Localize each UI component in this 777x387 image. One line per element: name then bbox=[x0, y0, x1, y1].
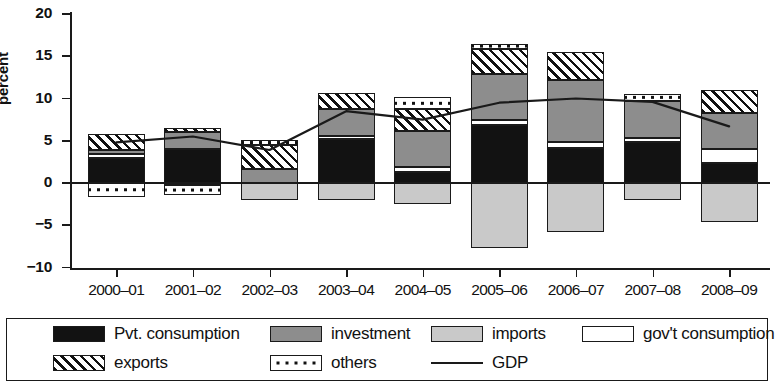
bar-segment-exp bbox=[164, 128, 221, 132]
bar-segment-imp bbox=[547, 183, 604, 232]
y-tick-label: 0 bbox=[8, 173, 52, 191]
y-tick-mark bbox=[62, 182, 71, 184]
chart-legend: Pvt. consumptioninvestmentimportsgov't c… bbox=[6, 318, 768, 381]
bar-stack bbox=[394, 0, 451, 290]
bar-segment-pvt bbox=[471, 125, 528, 183]
stacked-bar-chart: percent 20151050−5−10 2000–012001–022002… bbox=[0, 0, 777, 387]
bar-stack bbox=[318, 0, 375, 290]
bar-segment-gov bbox=[471, 120, 528, 124]
legend-label: investment bbox=[331, 324, 410, 344]
y-tick-mark bbox=[62, 140, 71, 142]
bar-stack bbox=[624, 0, 681, 290]
solid-black-swatch bbox=[53, 326, 105, 342]
bar-segment-exp bbox=[394, 109, 451, 131]
y-tick-label: 10 bbox=[8, 89, 52, 107]
y-tick-mark bbox=[62, 13, 71, 15]
bar-stack bbox=[88, 0, 145, 290]
bar-segment-inv bbox=[471, 74, 528, 120]
bar-segment-exp bbox=[88, 134, 145, 150]
bar-segment-pvt bbox=[547, 148, 604, 183]
bar-segment-inv bbox=[701, 113, 758, 149]
bar-segment-oth bbox=[624, 94, 681, 101]
y-tick-mark bbox=[62, 98, 71, 100]
dotted-swatch bbox=[270, 355, 322, 371]
bar-segment-exp bbox=[547, 52, 604, 80]
bar-stack bbox=[701, 0, 758, 290]
bar-segment-gov bbox=[701, 149, 758, 163]
legend-item[interactable]: others bbox=[270, 353, 376, 373]
bar-segment-exp bbox=[471, 49, 528, 74]
bar-segment-imp bbox=[471, 183, 528, 248]
bar-segment-inv bbox=[164, 132, 221, 149]
legend-item[interactable]: imports bbox=[431, 324, 546, 344]
line-swatch bbox=[431, 355, 483, 371]
bar-segment-gov bbox=[547, 142, 604, 147]
legend-label: GDP bbox=[492, 353, 528, 373]
bar-stack bbox=[547, 0, 604, 290]
bar-stack bbox=[241, 0, 298, 290]
y-tick-mark bbox=[62, 267, 71, 269]
y-tick-mark bbox=[62, 55, 71, 57]
y-tick-label: −5 bbox=[8, 215, 52, 233]
bar-segment-gov bbox=[394, 167, 451, 172]
bar-segment-gov bbox=[624, 138, 681, 142]
legend-item[interactable]: gov't consumption bbox=[582, 324, 774, 344]
legend-label: others bbox=[331, 353, 376, 373]
bar-segment-oth bbox=[394, 97, 451, 110]
bar-segment-pvt bbox=[318, 139, 375, 183]
y-tick-label: −10 bbox=[8, 258, 52, 276]
bar-segment-pvt bbox=[701, 163, 758, 183]
bar-segment-inv bbox=[394, 131, 451, 166]
bar-segment-oth bbox=[471, 44, 528, 48]
legend-item[interactable]: GDP bbox=[431, 353, 528, 373]
legend-row-secondary: exportsothersGDP bbox=[7, 353, 767, 379]
hatch-swatch bbox=[53, 355, 105, 371]
dark-gray-swatch bbox=[270, 326, 322, 342]
bar-segment-imp bbox=[241, 183, 298, 200]
bar-segment-inv bbox=[547, 80, 604, 143]
bar-segment-exp bbox=[701, 90, 758, 113]
bar-stack bbox=[471, 0, 528, 290]
y-tick-label: 5 bbox=[8, 131, 52, 149]
legend-label: imports bbox=[492, 324, 546, 344]
white-swatch bbox=[582, 326, 634, 342]
legend-label: gov't consumption bbox=[643, 324, 774, 344]
legend-item[interactable]: Pvt. consumption bbox=[53, 324, 240, 344]
bar-segment-pvt bbox=[394, 172, 451, 183]
bar-segment-oth bbox=[241, 140, 298, 145]
legend-row-primary: Pvt. consumptioninvestmentimportsgov't c… bbox=[7, 324, 767, 350]
bar-stack bbox=[164, 0, 221, 290]
bar-segment-oth bbox=[88, 183, 145, 197]
bar-segment-imp bbox=[394, 183, 451, 204]
bar-segment-inv bbox=[241, 169, 298, 183]
legend-item[interactable]: investment bbox=[270, 324, 410, 344]
bar-segment-gov bbox=[88, 154, 145, 158]
bar-segment-inv bbox=[624, 101, 681, 138]
bar-segment-exp bbox=[241, 145, 298, 170]
bar-segment-oth bbox=[164, 185, 221, 195]
bar-segment-imp bbox=[624, 183, 681, 200]
bar-segment-imp bbox=[318, 183, 375, 200]
y-tick-label: 15 bbox=[8, 46, 52, 64]
legend-label: exports bbox=[114, 353, 168, 373]
gdp-line-swatch bbox=[431, 362, 483, 365]
bar-segment-pvt bbox=[164, 149, 221, 183]
bar-segment-exp bbox=[318, 93, 375, 108]
bar-segment-gov bbox=[318, 136, 375, 139]
bar-segment-pvt bbox=[88, 158, 145, 183]
bar-segment-imp bbox=[701, 183, 758, 222]
bar-segment-inv bbox=[318, 109, 375, 136]
bar-segment-pvt bbox=[624, 142, 681, 183]
y-tick-label: 20 bbox=[8, 4, 52, 22]
legend-item[interactable]: exports bbox=[53, 353, 168, 373]
legend-label: Pvt. consumption bbox=[114, 324, 240, 344]
y-tick-mark bbox=[62, 224, 71, 226]
bar-segment-inv bbox=[88, 150, 145, 154]
light-gray-swatch bbox=[431, 326, 483, 342]
